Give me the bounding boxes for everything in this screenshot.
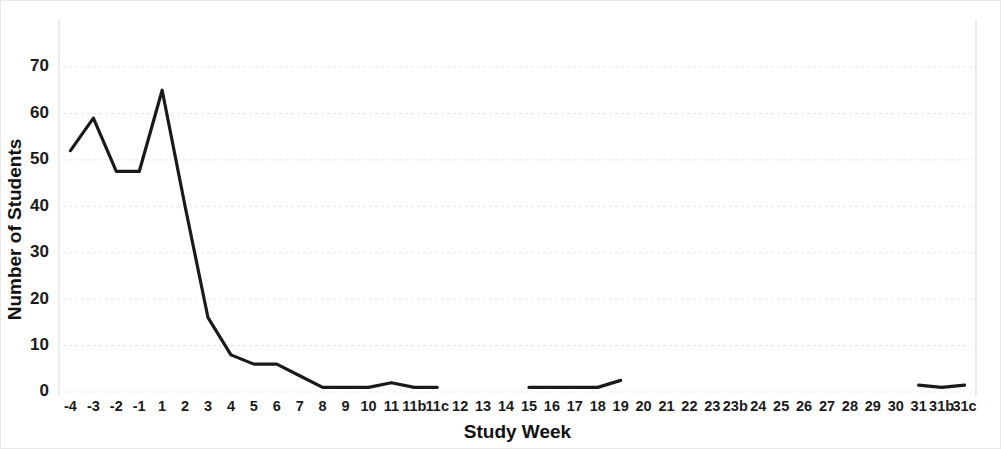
x-tick-label: 30 bbox=[888, 398, 904, 414]
x-tick-label: 16 bbox=[544, 398, 560, 414]
x-tick-label: 15 bbox=[521, 398, 537, 414]
x-tick-label: 5 bbox=[250, 398, 258, 414]
x-tick-label: 31 bbox=[911, 398, 927, 414]
x-tick-label: 24 bbox=[750, 398, 766, 414]
y-tick-label: 70 bbox=[30, 56, 49, 75]
y-tick-label: 10 bbox=[30, 335, 49, 354]
y-axis-title: Number of Students bbox=[4, 139, 25, 321]
line-chart-figure: 010203040506070-4-3-2-1123456789101111b1… bbox=[0, 0, 1001, 449]
x-tick-label: 7 bbox=[296, 398, 304, 414]
x-tick-label: 26 bbox=[796, 398, 812, 414]
x-tick-label: 29 bbox=[865, 398, 881, 414]
x-tick-label: 20 bbox=[636, 398, 652, 414]
y-tick-label: 40 bbox=[30, 196, 49, 215]
x-tick-label: 3 bbox=[204, 398, 212, 414]
x-tick-label: 4 bbox=[227, 398, 235, 414]
x-tick-label: 22 bbox=[681, 398, 697, 414]
x-tick-label: 31b bbox=[929, 398, 954, 414]
x-tick-label: 1 bbox=[158, 398, 166, 414]
x-tick-label: 12 bbox=[452, 398, 468, 414]
x-tick-label: 18 bbox=[590, 398, 606, 414]
x-tick-label: 2 bbox=[181, 398, 189, 414]
y-tick-label: 60 bbox=[30, 103, 49, 122]
x-tick-label: 28 bbox=[842, 398, 858, 414]
x-tick-label: 23 bbox=[704, 398, 720, 414]
x-tick-label: 11 bbox=[384, 398, 399, 414]
data-line-segment bbox=[919, 385, 965, 387]
x-tick-label: 9 bbox=[342, 398, 350, 414]
x-tick-label: 6 bbox=[273, 398, 281, 414]
x-tick-label: 21 bbox=[658, 398, 674, 414]
x-tick-label: 11c bbox=[426, 398, 449, 414]
x-tick-label: 19 bbox=[613, 398, 629, 414]
x-tick-label: -2 bbox=[110, 398, 123, 414]
y-tick-label: 50 bbox=[30, 149, 49, 168]
x-tick-label: 31c bbox=[952, 398, 976, 414]
y-tick-label: 0 bbox=[40, 381, 49, 400]
y-tick-label: 30 bbox=[30, 242, 49, 261]
x-tick-label: 13 bbox=[475, 398, 491, 414]
x-tick-label: 27 bbox=[819, 398, 835, 414]
x-axis-title: Study Week bbox=[464, 421, 572, 442]
x-tick-label: 17 bbox=[567, 398, 583, 414]
data-line-segment bbox=[529, 380, 621, 387]
x-tick-label: -1 bbox=[133, 398, 146, 414]
x-tick-label: 10 bbox=[360, 398, 376, 414]
x-tick-label: 8 bbox=[319, 398, 327, 414]
x-tick-label: 14 bbox=[498, 398, 514, 414]
data-line-segment bbox=[70, 90, 437, 387]
x-tick-label: 11b bbox=[402, 398, 426, 414]
chart-plot-area: 010203040506070-4-3-2-1123456789101111b1… bbox=[1, 1, 1001, 449]
x-tick-label: -4 bbox=[64, 398, 77, 414]
y-tick-label: 20 bbox=[30, 289, 49, 308]
x-tick-label: 23b bbox=[723, 398, 748, 414]
x-tick-label: 25 bbox=[773, 398, 789, 414]
x-tick-label: -3 bbox=[87, 398, 100, 414]
